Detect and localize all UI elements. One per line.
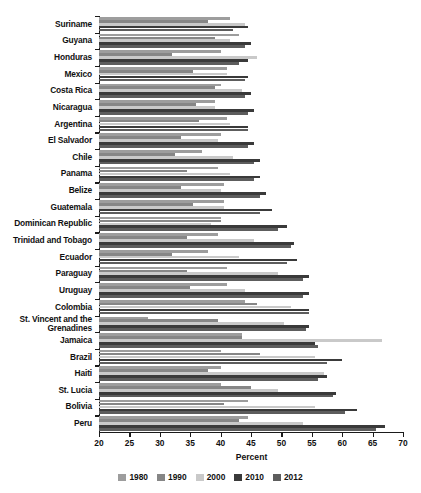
y-tick <box>95 16 99 17</box>
bar-group <box>99 382 403 399</box>
x-tick-label: 65 <box>358 438 388 448</box>
legend-swatch-icon <box>118 474 126 481</box>
cropped-header-text <box>10 0 415 7</box>
x-tick <box>281 433 282 437</box>
bar-2012 <box>99 178 254 181</box>
legend-label: 2012 <box>284 472 303 482</box>
y-tick <box>95 332 99 333</box>
y-tick <box>95 299 99 300</box>
category-label: Peru <box>0 419 96 428</box>
bar-group <box>99 266 403 283</box>
bar-2012 <box>99 278 303 281</box>
category-label: Dominican Republic <box>0 219 96 228</box>
bar-2012 <box>99 162 254 165</box>
y-tick <box>95 382 99 383</box>
x-tick-label: 40 <box>206 438 236 448</box>
bar-group <box>99 349 403 366</box>
plot-area <box>99 16 403 432</box>
bar-group <box>99 16 403 33</box>
legend-item[interactable]: 1980 <box>118 472 148 482</box>
bar-2012 <box>99 362 327 365</box>
category-label: Uruguay <box>0 286 96 295</box>
bar-2012 <box>99 95 245 98</box>
x-tick <box>342 433 343 437</box>
y-tick <box>95 99 99 100</box>
y-tick <box>95 182 99 183</box>
chart-legend: 19801990200020102012 <box>0 472 421 482</box>
y-tick <box>95 66 99 67</box>
bar-group <box>99 332 403 349</box>
y-tick <box>95 365 99 366</box>
category-label: Haiti <box>0 369 96 378</box>
legend-label: 2000 <box>207 472 226 482</box>
bar-2012 <box>99 62 239 65</box>
legend-item[interactable]: 1990 <box>157 472 187 482</box>
legend-swatch-icon <box>273 474 281 481</box>
category-label: Honduras <box>0 53 96 62</box>
bar-group <box>99 299 403 316</box>
x-tick-label: 35 <box>175 438 205 448</box>
legend-swatch-icon <box>157 474 165 481</box>
bar-group <box>99 216 403 233</box>
bar-group <box>99 399 403 416</box>
legend-item[interactable]: 2000 <box>196 472 226 482</box>
bar-2012 <box>99 262 287 265</box>
category-label: Colombia <box>0 303 96 312</box>
legend-label: 2010 <box>245 472 264 482</box>
bar-group <box>99 116 403 133</box>
y-tick <box>95 33 99 34</box>
y-tick <box>95 232 99 233</box>
legend-item[interactable]: 2012 <box>273 472 303 482</box>
x-tick-label: 70 <box>388 438 418 448</box>
y-tick <box>95 266 99 267</box>
bar-2012 <box>99 45 245 48</box>
x-tick <box>190 433 191 437</box>
y-tick <box>95 149 99 150</box>
bar-2012 <box>99 345 318 348</box>
x-tick <box>221 433 222 437</box>
bar-group <box>99 66 403 83</box>
x-tick-label: 30 <box>145 438 175 448</box>
category-label: Mexico <box>0 70 96 79</box>
bar-group <box>99 132 403 149</box>
bar-group <box>99 182 403 199</box>
bar-group <box>99 365 403 382</box>
y-tick <box>95 116 99 117</box>
bar-group <box>99 232 403 249</box>
bar-2012 <box>99 212 260 215</box>
bar-group <box>99 316 403 333</box>
bar-group <box>99 149 403 166</box>
bar-2012 <box>99 328 306 331</box>
y-tick <box>95 83 99 84</box>
category-label: Guatemala <box>0 203 96 212</box>
legend-label: 1990 <box>168 472 187 482</box>
bar-2012 <box>99 428 376 431</box>
x-tick <box>403 433 404 437</box>
y-tick <box>95 199 99 200</box>
y-tick <box>95 316 99 317</box>
x-tick-label: 50 <box>266 438 296 448</box>
bar-2012 <box>99 112 248 115</box>
bar-2012 <box>99 378 318 381</box>
y-tick <box>95 166 99 167</box>
category-label: Brazil <box>0 353 96 362</box>
x-tick <box>373 433 374 437</box>
category-axis-labels: SurinameGuyanaHondurasMexicoCosta RicaNi… <box>0 16 96 432</box>
bar-2012 <box>99 79 245 82</box>
category-label: Ecuador <box>0 253 96 262</box>
bar-2012 <box>99 312 309 315</box>
y-tick <box>95 249 99 250</box>
bar-2012 <box>99 195 260 198</box>
bar-2012 <box>99 395 333 398</box>
x-tick-label: 45 <box>236 438 266 448</box>
bar-group <box>99 249 403 266</box>
y-tick <box>95 216 99 217</box>
x-tick-label: 60 <box>327 438 357 448</box>
bar-group <box>99 415 403 432</box>
legend-item[interactable]: 2010 <box>234 472 264 482</box>
x-tick <box>312 433 313 437</box>
bar-2012 <box>99 29 233 32</box>
x-tick-label: 25 <box>114 438 144 448</box>
category-label: Guyana <box>0 36 96 45</box>
category-label: Belize <box>0 186 96 195</box>
